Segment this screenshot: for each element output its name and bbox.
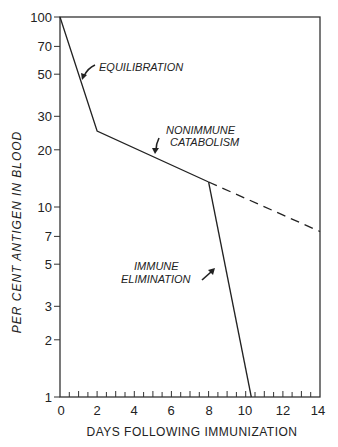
annotation-immune-text-2: ELIMINATION (121, 273, 191, 285)
x-axis-title: DAYS FOLLOWING IMMUNIZATION (86, 425, 297, 439)
annotation-immune: IMMUNE ELIMINATION (121, 260, 215, 285)
y-axis-title: PER CENT ANTIGEN IN BLOOD (10, 131, 24, 334)
annotation-equilibration: EQUILIBRATION (81, 61, 183, 80)
arrow-icon (202, 272, 211, 280)
x-tick-12: 12 (276, 403, 290, 418)
annotation-equilibration-text: EQUILIBRATION (99, 61, 183, 73)
x-axis (69, 391, 310, 397)
x-tick-4: 4 (130, 403, 137, 418)
y-tick-2: 2 (45, 333, 52, 348)
x-tick-labels: 0 2 4 6 8 10 12 14 (57, 403, 325, 418)
y-tick-3: 3 (45, 299, 52, 314)
x-tick-8: 8 (205, 403, 212, 418)
annotation-nonimmune: NONIMMUNE CATABOLISM (152, 124, 240, 154)
line-immune-elimination (209, 182, 252, 397)
y-tick-100: 100 (30, 10, 52, 25)
x-tick-2: 2 (93, 403, 100, 418)
arrowhead-icon (152, 148, 159, 154)
plot-frame (60, 17, 320, 397)
y-tick-10: 10 (38, 200, 52, 215)
x-tick-10: 10 (238, 403, 252, 418)
x-tick-14: 14 (311, 403, 325, 418)
y-tick-7: 7 (45, 229, 52, 244)
annotation-nonimmune-text-1: NONIMMUNE (166, 124, 236, 136)
y-tick-20: 20 (38, 143, 52, 158)
x-tick-6: 6 (167, 403, 174, 418)
y-tick-1: 1 (45, 390, 52, 405)
line-equilibration-catabolism (60, 17, 209, 182)
y-axis (54, 17, 60, 397)
y-tick-70: 70 (38, 39, 52, 54)
y-tick-30: 30 (38, 109, 52, 124)
chart-canvas: 100 70 50 30 20 10 7 5 3 2 1 (0, 0, 338, 447)
arrowhead-icon (81, 73, 87, 80)
annotation-immune-text-1: IMMUNE (134, 260, 179, 272)
y-tick-50: 50 (38, 67, 52, 82)
y-tick-5: 5 (45, 257, 52, 272)
arrow-icon (84, 65, 95, 76)
annotation-nonimmune-text-2: CATABOLISM (170, 136, 240, 148)
x-tick-0: 0 (57, 403, 64, 418)
y-tick-labels: 100 70 50 30 20 10 7 5 3 2 1 (30, 10, 52, 405)
line-nonimmune-extrapolated (209, 182, 320, 232)
